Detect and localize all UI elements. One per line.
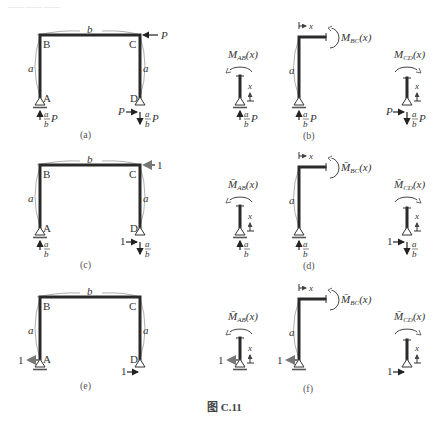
- panel-c-frame: b a a B C A D 1 a b 1 a b (c): [28, 153, 163, 271]
- caption-f: (f): [303, 383, 313, 395]
- svg-text:x: x: [308, 283, 313, 293]
- moment-AB-arc: [228, 67, 252, 72]
- caption-a: (a): [80, 129, 91, 141]
- frac-num: a: [303, 239, 308, 249]
- svg-text:a: a: [289, 194, 295, 206]
- dim-a-left-label: a: [28, 324, 34, 336]
- frac-num: a: [44, 109, 49, 119]
- moment-AB-label: M̄AB(x): [227, 310, 258, 324]
- frac-den: b: [44, 249, 49, 259]
- svg-text:x: x: [247, 343, 252, 353]
- svg-text:1: 1: [277, 354, 283, 366]
- figure-caption: 图 C.11: [207, 401, 242, 413]
- frac-num: a: [244, 239, 249, 249]
- frame-members: [40, 35, 140, 97]
- node-C-label: C: [129, 168, 136, 180]
- figure-c11: —— —— —— b a a B C A D P a b P P a b P (…: [0, 0, 443, 430]
- moment-BC-label: M̄BC(x): [340, 293, 372, 307]
- node-A-label: A: [43, 92, 51, 104]
- member-AB-section: M̄AB(x) x 1: [218, 310, 258, 370]
- svg-text:1: 1: [387, 235, 393, 247]
- svg-text:P: P: [309, 112, 317, 124]
- svg-text:P: P: [385, 105, 393, 117]
- dim-b-label: b: [87, 23, 93, 35]
- panel-b-freebody: MAB(x) x a b P x a MBC(x: [226, 21, 426, 142]
- reaction-D-horizontal-label: P: [117, 105, 125, 117]
- reaction-P-D: P: [151, 112, 159, 124]
- node-A-label: A: [43, 353, 51, 365]
- frac-den: b: [145, 249, 150, 259]
- member-AB-section: M̄AB(x) x a b: [226, 178, 258, 259]
- caption-e: (e): [80, 380, 91, 392]
- dim-b-label: b: [87, 285, 93, 297]
- frame-members: [40, 297, 140, 359]
- node-B-label: B: [43, 38, 50, 50]
- member-CD-section: M̄CD(x) x 1 a b: [387, 178, 425, 259]
- svg-text:x: x: [308, 151, 313, 161]
- frac-den: b: [303, 249, 308, 259]
- dim-b-label: b: [87, 153, 93, 165]
- frame-members: [40, 165, 140, 227]
- svg-text:1: 1: [387, 365, 393, 377]
- svg-text:x: x: [414, 81, 419, 91]
- moment-AB-label: MAB(x): [227, 48, 258, 62]
- reaction-P-A: P: [50, 112, 58, 124]
- frac-den: b: [244, 119, 249, 129]
- unit-load-label-C: 1: [157, 159, 163, 171]
- unit-load-label-D: 1: [121, 365, 127, 377]
- node-C-label: C: [129, 300, 136, 312]
- panel-d-freebody: M̄AB(x) x a b x a M̄BC(x): [226, 151, 425, 272]
- frac-den: b: [303, 119, 308, 129]
- reaction-D-horizontal-label: 1: [120, 235, 126, 247]
- node-B-label: B: [43, 168, 50, 180]
- node-A-label: A: [43, 222, 51, 234]
- frac-den: b: [145, 119, 150, 129]
- frac-den: b: [44, 119, 49, 129]
- panel-a-frame: b a a B C A D P a b P P a b P (a): [28, 23, 168, 141]
- caption-c: (c): [80, 259, 91, 271]
- frac-num: a: [303, 109, 308, 119]
- moment-CD-label: M̄CD(x): [393, 178, 425, 192]
- node-C-label: C: [129, 38, 136, 50]
- header-fragment: —— —— ——: [7, 2, 61, 11]
- member-BC-section: x a MBC(x) a b P: [289, 21, 372, 129]
- frac-num: a: [412, 239, 417, 249]
- svg-text:1: 1: [218, 354, 224, 366]
- moment-BC-label: M̄BC(x): [340, 161, 372, 175]
- frac-num: a: [412, 109, 417, 119]
- dim-a-right-label: a: [143, 192, 149, 204]
- frac-den: b: [244, 249, 249, 259]
- dim-a-left-label: a: [28, 192, 34, 204]
- dim-a-label: a: [289, 64, 295, 76]
- member-AB-section: MAB(x) x a b P: [226, 48, 258, 129]
- frac-num: a: [244, 109, 249, 119]
- moment-CD-label: M̄CD(x): [393, 310, 425, 324]
- moment-BC-arc: [330, 28, 339, 48]
- panel-e-frame: b a a B C A D 1 1 (e): [18, 285, 149, 392]
- svg-text:x: x: [414, 211, 419, 221]
- dim-a-left-label: a: [28, 62, 34, 74]
- caption-d: (d): [303, 260, 315, 272]
- frac-num: a: [145, 109, 150, 119]
- unit-load-label-A: 1: [18, 354, 24, 366]
- member-CD-section: MCD(x) x P a b P: [385, 48, 426, 129]
- frac-num: a: [145, 239, 150, 249]
- dim-a-right-label: a: [143, 62, 149, 74]
- dim-a-right-label: a: [143, 324, 149, 336]
- moment-AB-label: M̄AB(x): [227, 178, 258, 192]
- node-B-label: B: [43, 300, 50, 312]
- moment-BC-label: MBC(x): [340, 31, 372, 45]
- coord-x-label: x: [308, 21, 313, 31]
- coord-x-label: x: [247, 81, 252, 91]
- frac-den: b: [412, 249, 417, 259]
- moment-CD-label: MCD(x): [393, 48, 425, 62]
- member-BC-section: x a M̄BC(x) a b: [289, 151, 372, 259]
- load-label-C: P: [160, 29, 168, 41]
- svg-text:a: a: [289, 326, 295, 338]
- svg-text:P: P: [418, 112, 426, 124]
- svg-text:x: x: [414, 343, 419, 353]
- member-CD-section: M̄CD(x) x 1: [387, 310, 425, 377]
- member-BC-section: x a M̄BC(x) 1: [277, 283, 372, 370]
- svg-text:P: P: [250, 112, 258, 124]
- caption-b: (b): [303, 130, 315, 142]
